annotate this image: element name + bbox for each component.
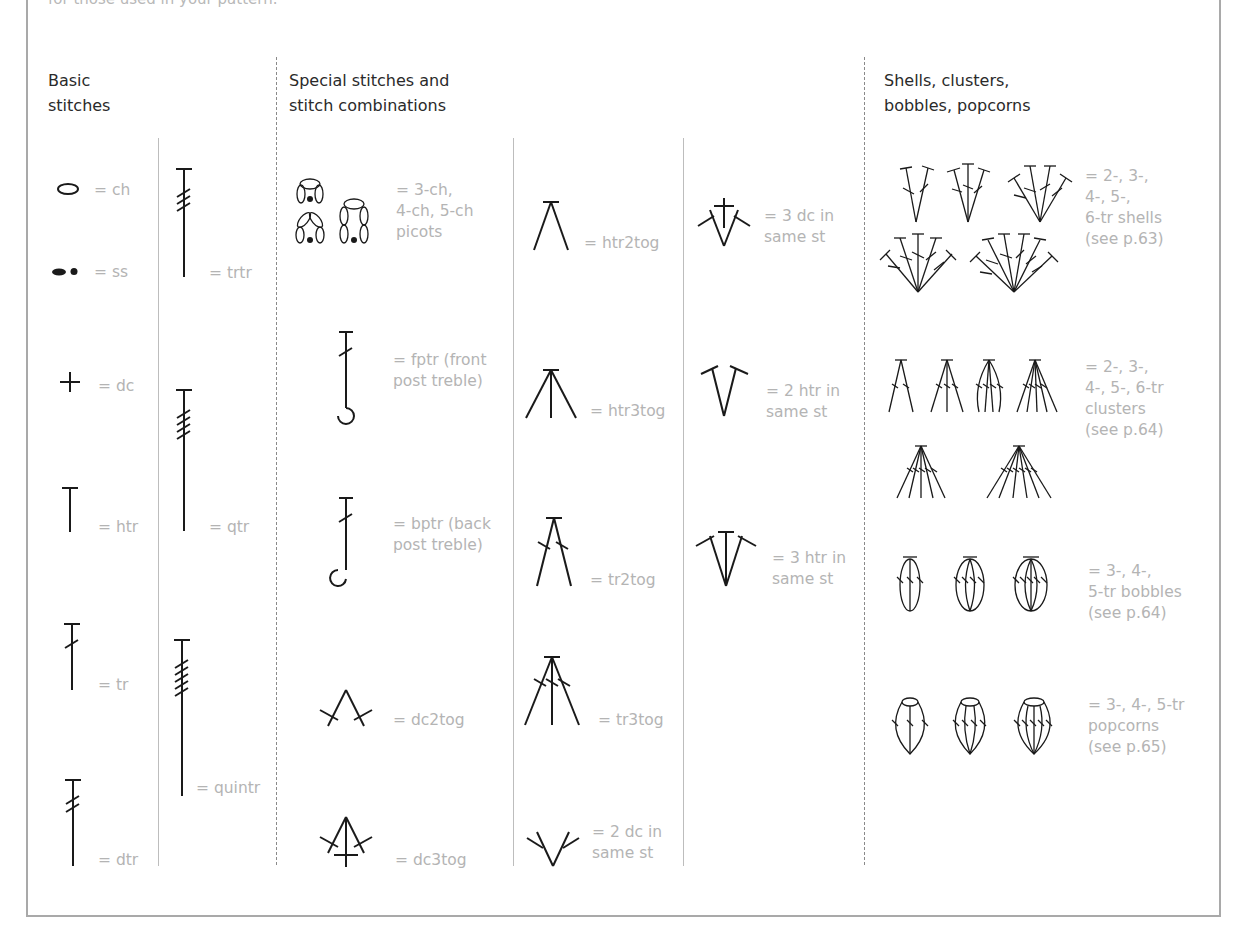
label-line: post treble) (393, 535, 491, 556)
label-ch: = ch (94, 180, 130, 201)
label-popcorns: = 3-, 4-, 5-tr popcorns (see p.65) (1088, 695, 1184, 758)
label-line: (see p.63) (1085, 229, 1164, 250)
dc2tog-icon (318, 688, 374, 728)
column-divider (158, 138, 159, 866)
section-heading-special: Special stitches and stitch combinations (289, 68, 449, 118)
heading-line: Special stitches and (289, 68, 449, 93)
label-line: same st (772, 569, 846, 590)
htr3tog-icon (523, 368, 577, 420)
label-line: = 3-, 4-, (1088, 561, 1182, 582)
tr-shells-icon (878, 162, 1058, 294)
label-line: = 3-, 4-, 5-tr (1088, 695, 1184, 716)
back-post-treble-icon (333, 496, 357, 592)
label-dtr: = dtr (98, 850, 138, 871)
label-tr2tog: = tr2tog (590, 570, 656, 591)
heading-line: stitch combinations (289, 93, 449, 118)
label-line: 5-tr bobbles (1088, 582, 1182, 603)
label-line: (see p.64) (1088, 603, 1182, 624)
tr3tog-icon (522, 655, 586, 727)
two-dc-same-st-icon (525, 826, 581, 868)
label-line: = 3 htr in (772, 548, 846, 569)
label-line: = bptr (back (393, 514, 491, 535)
label-line: 6-tr shells (1085, 208, 1164, 229)
label-line: (see p.65) (1088, 737, 1184, 758)
label-bobbles: = 3-, 4-, 5-tr bobbles (see p.64) (1088, 561, 1182, 624)
label-line: clusters (1085, 399, 1164, 420)
column-divider (513, 138, 514, 866)
label-trtr: = trtr (209, 263, 252, 284)
label-dc2tog: = dc2tog (393, 710, 465, 731)
section-heading-basic: Basic stitches (48, 68, 110, 118)
label-line: picots (396, 222, 473, 243)
three-dc-same-st-icon (696, 196, 752, 248)
column-divider (683, 138, 684, 866)
label-line: same st (764, 227, 834, 248)
label-line: popcorns (1088, 716, 1184, 737)
label-line: 4-, 5-, (1085, 187, 1164, 208)
intro-text: for those used in your pattern. (48, 0, 277, 8)
label-line: = 2-, 3-, (1085, 357, 1164, 378)
label-line: same st (766, 402, 840, 423)
treble-icon (62, 622, 82, 692)
label-3htr-same-st: = 3 htr in same st (772, 548, 846, 590)
label-tr: = tr (98, 675, 128, 696)
label-line: same st (592, 843, 662, 864)
picots-icon (295, 175, 375, 255)
heading-line: Basic (48, 68, 110, 93)
triple-treble-icon (174, 167, 194, 279)
double-treble-icon (63, 778, 83, 868)
label-line: = 2 htr in (766, 381, 840, 402)
label-line: (see p.64) (1085, 420, 1164, 441)
slip-stitch-icon (50, 266, 82, 278)
section-divider-dashed (276, 57, 277, 865)
label-tr3tog: = tr3tog (598, 710, 664, 731)
front-post-treble-icon (333, 330, 357, 426)
label-line: = 3-ch, (396, 180, 473, 201)
label-htr: = htr (98, 517, 138, 538)
half-treble-icon (60, 486, 80, 534)
label-bptr: = bptr (back post treble) (393, 514, 491, 556)
quintuple-treble-icon (172, 638, 192, 798)
label-htr2tog: = htr2tog (584, 233, 659, 254)
quadruple-treble-icon (174, 388, 194, 533)
label-line: = 2 dc in (592, 822, 662, 843)
three-htr-same-st-icon (694, 530, 758, 588)
label-ss: = ss (94, 262, 128, 283)
two-htr-same-st-icon (698, 364, 750, 418)
label-fptr: = fptr (front post treble) (393, 350, 487, 392)
label-2dc-same-st: = 2 dc in same st (592, 822, 662, 864)
heading-line: bobbles, popcorns (884, 93, 1031, 118)
dc3tog-icon (318, 815, 374, 869)
label-line: post treble) (393, 371, 487, 392)
chain-icon (56, 182, 80, 196)
htr2tog-icon (531, 200, 571, 252)
label-dc3tog: = dc3tog (395, 850, 467, 871)
heading-line: Shells, clusters, (884, 68, 1031, 93)
tr-bobbles-icon (895, 555, 1065, 615)
tr2tog-icon (534, 516, 574, 588)
label-line: = 3 dc in (764, 206, 834, 227)
label-clusters: = 2-, 3-, 4-, 5-, 6-tr clusters (see p.6… (1085, 357, 1164, 441)
label-3dc-same-st: = 3 dc in same st (764, 206, 834, 248)
label-line: 4-, 5-, 6-tr (1085, 378, 1164, 399)
label-2htr-same-st: = 2 htr in same st (766, 381, 840, 423)
label-dc: = dc (98, 376, 134, 397)
section-heading-shells: Shells, clusters, bobbles, popcorns (884, 68, 1031, 118)
label-line: = 2-, 3-, (1085, 166, 1164, 187)
tr-clusters-icon (885, 358, 1085, 502)
tr-popcorns-icon (892, 696, 1068, 758)
label-quintr: = quintr (196, 778, 260, 799)
label-htr3tog: = htr3tog (590, 401, 665, 422)
heading-line: stitches (48, 93, 110, 118)
section-divider-dashed (864, 57, 865, 865)
label-line: = fptr (front (393, 350, 487, 371)
double-crochet-icon (58, 370, 82, 394)
label-line: 4-ch, 5-ch (396, 201, 473, 222)
label-qtr: = qtr (209, 517, 249, 538)
label-shells: = 2-, 3-, 4-, 5-, 6-tr shells (see p.63) (1085, 166, 1164, 250)
label-picots: = 3-ch, 4-ch, 5-ch picots (396, 180, 473, 243)
